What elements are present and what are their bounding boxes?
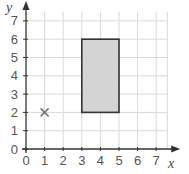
shaded-rectangle xyxy=(82,39,119,112)
y-tick-label: 6 xyxy=(11,32,18,47)
x-tick-label: 0 xyxy=(22,153,29,168)
y-tick-label: 0 xyxy=(11,142,18,157)
y-tick-label: 2 xyxy=(11,105,18,120)
y-tick-label: 3 xyxy=(11,87,18,102)
rectangle-shape xyxy=(82,39,119,112)
x-axis-arrow-icon xyxy=(171,146,180,153)
y-tick-label: 1 xyxy=(11,123,18,138)
y-axis-label: y xyxy=(4,0,13,15)
y-tick-label: 5 xyxy=(11,50,18,65)
x-tick-label: 5 xyxy=(115,153,122,168)
x-tick-label: 2 xyxy=(60,153,67,168)
y-tick-label: 7 xyxy=(11,13,18,28)
x-tick-label: 3 xyxy=(78,153,85,168)
y-tick-label: 4 xyxy=(11,68,18,83)
x-axis-label: x xyxy=(167,156,175,171)
x-tick-label: 1 xyxy=(41,153,48,168)
y-axis-arrow-icon xyxy=(23,1,30,10)
x-tick-label: 7 xyxy=(153,153,160,168)
x-tick-label: 6 xyxy=(134,153,141,168)
coordinate-grid-chart: 0123456701234567 x y xyxy=(0,0,189,174)
x-tick-label: 4 xyxy=(97,153,104,168)
